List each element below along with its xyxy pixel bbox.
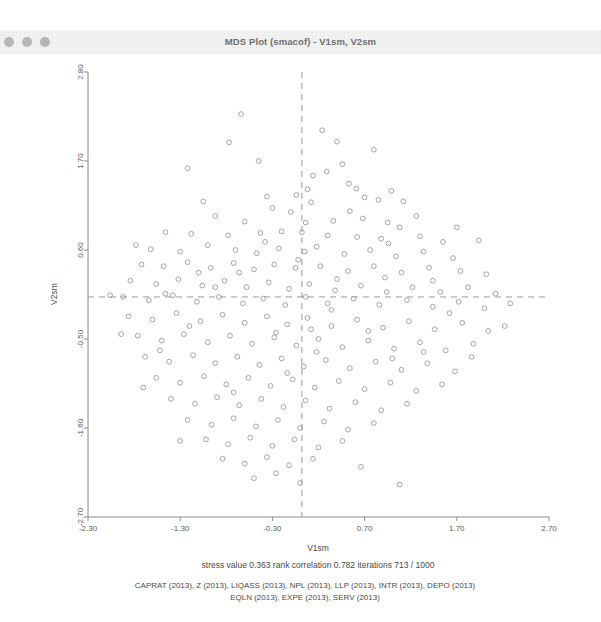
data-point (208, 265, 213, 270)
data-point (454, 225, 459, 230)
data-point (399, 367, 404, 372)
data-point (235, 354, 240, 359)
data-point (242, 461, 247, 466)
data-point (296, 257, 301, 262)
data-point (405, 298, 410, 303)
data-point (368, 248, 373, 253)
data-point (252, 267, 257, 272)
data-point (154, 375, 159, 380)
data-point (333, 288, 338, 293)
data-point (204, 437, 209, 442)
data-point (305, 316, 310, 321)
data-point (261, 296, 266, 301)
data-point (169, 396, 174, 401)
data-point (287, 463, 292, 468)
data-point (220, 312, 225, 317)
data-point (316, 445, 321, 450)
data-point (335, 139, 340, 144)
data-point (281, 405, 286, 410)
data-point (397, 482, 402, 487)
data-point (460, 320, 465, 325)
data-point (340, 162, 345, 167)
data-point (242, 219, 247, 224)
data-point (185, 260, 190, 265)
window-titlebar: MDS Plot (smacof) - V1sm, V2sm (0, 30, 601, 55)
data-point (222, 278, 227, 283)
data-point (258, 231, 263, 236)
data-point (309, 327, 314, 332)
data-point (274, 471, 279, 476)
data-point (254, 251, 259, 256)
data-point (430, 304, 435, 309)
data-point (425, 361, 430, 366)
data-point (447, 311, 452, 316)
data-point (502, 324, 507, 329)
data-point (414, 388, 419, 393)
data-point (359, 464, 364, 469)
y-tick-label: -2.70 (76, 507, 85, 526)
data-point (252, 476, 257, 481)
data-point (270, 443, 275, 448)
data-point (336, 379, 341, 384)
data-point (242, 320, 247, 325)
data-point (314, 244, 319, 249)
data-point (477, 238, 482, 243)
data-point (410, 285, 415, 290)
data-point (213, 285, 218, 290)
data-point (456, 299, 461, 304)
data-point (279, 356, 284, 361)
data-point (194, 299, 199, 304)
data-point (174, 311, 179, 316)
variables-line-1: CAPRAT (2013), Z (2013), LIQASS (2013), … (135, 581, 476, 590)
data-point (305, 187, 310, 192)
data-point (359, 283, 364, 288)
data-point (143, 354, 148, 359)
data-point (303, 220, 308, 225)
data-point (453, 369, 458, 374)
data-point (430, 278, 435, 283)
y-axis-ticks: 2.801.700.60-0.50-1.60-2.70 (76, 64, 88, 526)
data-point (213, 361, 218, 366)
x-axis-ticks: -2.30-1.30-0.300.701.702.70 (79, 517, 557, 533)
data-point (327, 406, 332, 411)
data-point (484, 272, 489, 277)
data-point (264, 455, 269, 460)
y-tick-label: 0.60 (76, 242, 85, 258)
data-point (270, 206, 275, 211)
data-point (311, 173, 316, 178)
data-point (347, 181, 352, 186)
data-point (231, 261, 236, 266)
data-point (248, 435, 253, 440)
plot-svg: -2.30-1.30-0.300.701.702.70 2.801.700.60… (0, 54, 601, 622)
data-point (233, 248, 238, 253)
data-point (202, 374, 207, 379)
data-point (469, 354, 474, 359)
data-point (239, 112, 244, 117)
data-point (178, 249, 183, 254)
data-point (465, 285, 470, 290)
data-point (386, 241, 391, 246)
data-point (347, 209, 352, 214)
data-point (119, 332, 124, 337)
data-point (163, 230, 168, 235)
data-point (201, 199, 206, 204)
data-point (418, 234, 423, 239)
data-point (307, 282, 312, 287)
data-point (241, 301, 246, 306)
data-point (228, 333, 233, 338)
data-point (421, 350, 426, 355)
y-axis-title: V2sm (49, 283, 59, 305)
data-point (231, 416, 236, 421)
data-point (285, 371, 290, 376)
y-tick-label: 2.80 (76, 64, 85, 80)
y-tick-label: 1.70 (76, 153, 85, 169)
data-point (355, 317, 360, 322)
data-point (314, 350, 319, 355)
data-point (288, 210, 293, 215)
data-point (237, 270, 242, 275)
data-point (399, 270, 404, 275)
scatter-points (108, 112, 513, 487)
data-point (146, 298, 151, 303)
window-title: MDS Plot (smacof) - V1sm, V2sm (0, 30, 601, 54)
data-point (390, 356, 395, 361)
